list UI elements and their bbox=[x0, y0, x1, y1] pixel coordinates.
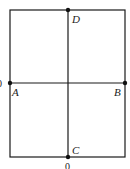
label-c: C bbox=[72, 144, 80, 156]
label-d: D bbox=[71, 13, 80, 25]
edge-mark-bottom: 0 bbox=[65, 161, 70, 169]
point-b-dot bbox=[123, 81, 127, 85]
geometry-diagram: A B C D 0 0 bbox=[0, 0, 130, 169]
point-a-dot bbox=[8, 81, 12, 85]
point-c-dot bbox=[66, 155, 70, 159]
label-a: A bbox=[11, 86, 19, 98]
point-d-dot bbox=[66, 8, 70, 12]
edge-mark-left: 0 bbox=[0, 78, 2, 89]
label-b: B bbox=[114, 86, 121, 98]
